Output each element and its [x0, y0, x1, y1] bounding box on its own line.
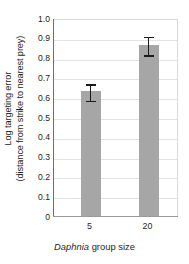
error-bar-stem: [90, 84, 91, 102]
gridline: [54, 79, 177, 80]
gridline: [54, 60, 177, 61]
y-tick-label: 0.9: [26, 34, 50, 43]
gridline: [54, 178, 177, 179]
y-axis-tick-labels: 1.00.90.80.70.60.50.40.30.20.10: [26, 0, 50, 264]
gridline: [54, 159, 177, 160]
y-axis-line: [53, 19, 54, 217]
plot-area: [53, 19, 178, 217]
error-bar: [144, 37, 154, 57]
error-bar-stem: [148, 37, 149, 57]
x-axis-line: [53, 216, 178, 217]
bar: [139, 45, 159, 216]
plot-inner: [54, 20, 177, 216]
bar-chart-figure: Log targeting error (distance from strik…: [0, 0, 189, 264]
y-tick-label: 0.8: [26, 54, 50, 63]
bar: [81, 91, 101, 216]
x-axis-title-genus: Daphnia: [54, 241, 89, 252]
x-axis-title: Daphnia group size: [0, 241, 189, 252]
y-tick-label: 0: [26, 213, 50, 222]
y-tick-label: 0.1: [26, 193, 50, 202]
x-tick-label: 20: [128, 222, 168, 231]
y-axis-title-line1: Log targeting error: [3, 36, 15, 182]
x-tick-label: 5: [70, 222, 110, 231]
gridline: [54, 139, 177, 140]
y-tick-label: 0.3: [26, 153, 50, 162]
y-tick-label: 0.2: [26, 173, 50, 182]
x-axis-title-rest: group size: [89, 241, 135, 252]
y-tick-label: 0.6: [26, 94, 50, 103]
error-bar: [86, 84, 96, 102]
gridline: [54, 40, 177, 41]
error-bar-cap-top: [144, 37, 154, 38]
gridline: [54, 119, 177, 120]
y-tick-label: 0.7: [26, 74, 50, 83]
y-tick-label: 0.4: [26, 133, 50, 142]
gridline: [54, 99, 177, 100]
error-bar-cap-bottom: [86, 101, 96, 102]
gridline: [54, 198, 177, 199]
y-tick-label: 0.5: [26, 114, 50, 123]
error-bar-cap-bottom: [144, 55, 154, 56]
y-axis-title-line2: (distance from strike to nearest prey): [15, 36, 27, 182]
error-bar-cap-top: [86, 84, 96, 85]
y-tick-label: 1.0: [26, 15, 50, 24]
